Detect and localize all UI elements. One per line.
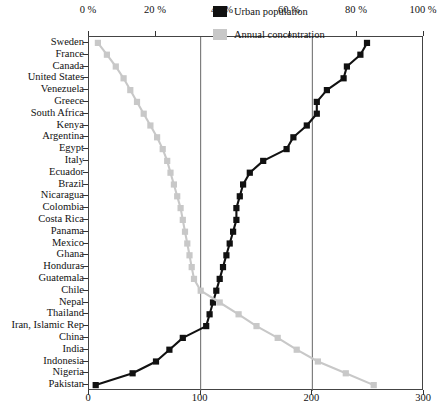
category-label: Pakistan (48, 379, 84, 390)
category-tick (83, 77, 88, 78)
series-marker (217, 299, 223, 305)
legend-label: Urban population (234, 6, 308, 17)
category-tick (83, 361, 88, 362)
category-tick (83, 254, 88, 255)
category-tick (83, 243, 88, 244)
category-label: France (55, 48, 84, 59)
category-tick (83, 337, 88, 338)
legend-item[interactable]: Urban population (213, 4, 308, 18)
category-tick (83, 136, 88, 137)
series-marker (121, 75, 127, 81)
series-canvas (89, 37, 424, 391)
series-marker (93, 382, 99, 388)
category-tick (83, 266, 88, 267)
category-label: China (59, 332, 84, 343)
top-axis-tick-label: 80 % (345, 4, 367, 15)
series-marker (174, 193, 180, 199)
series-marker (364, 40, 370, 46)
category-tick (83, 302, 88, 303)
category-label: United States (28, 72, 84, 83)
series-marker (284, 146, 290, 152)
category-tick (83, 372, 88, 373)
category-label: Panama (51, 225, 84, 236)
category-tick (83, 42, 88, 43)
category-tick (83, 325, 88, 326)
series-marker (147, 122, 153, 128)
category-label: Italy (65, 155, 84, 166)
series-marker (166, 347, 172, 353)
legend-item[interactable]: Annual concentration (213, 27, 325, 41)
series-marker (182, 229, 188, 235)
series-marker (223, 252, 229, 258)
series-marker (275, 335, 281, 341)
series-marker (203, 323, 209, 329)
category-tick (83, 148, 88, 149)
category-label: Ecuador (49, 166, 84, 177)
category-tick (83, 160, 88, 161)
category-label: Canada (53, 60, 85, 71)
series-marker (180, 335, 186, 341)
series-marker (247, 170, 253, 176)
category-tick (83, 101, 88, 102)
series-marker (260, 158, 266, 164)
category-tick (83, 349, 88, 350)
category-label: Brazil (58, 178, 84, 189)
series-marker (189, 264, 195, 270)
series-marker (134, 99, 140, 105)
category-tick (83, 384, 88, 385)
category-tick (83, 313, 88, 314)
top-axis-tick (423, 31, 424, 36)
category-label: Chile (61, 284, 84, 295)
series-marker (213, 288, 219, 294)
category-label: Mexico (52, 237, 84, 248)
category-label: Iran, Islamic Rep (11, 320, 84, 331)
series-line (96, 43, 367, 385)
legend-swatch-icon (213, 29, 227, 40)
category-label: Thailand (47, 308, 84, 319)
series-marker (160, 146, 166, 152)
series-marker (341, 75, 347, 81)
category-label: Argentina (42, 131, 84, 142)
series-marker (207, 311, 213, 317)
category-label: South Africa (31, 107, 84, 118)
series-marker (233, 205, 239, 211)
category-label: Colombia (43, 202, 84, 213)
category-label: Honduras (43, 261, 84, 272)
category-label: India (62, 343, 84, 354)
category-tick (83, 89, 88, 90)
plot-area (88, 36, 423, 390)
category-label: Egypt (59, 143, 84, 154)
category-tick (83, 113, 88, 114)
category-tick (83, 184, 88, 185)
category-tick (83, 290, 88, 291)
top-axis-tick-label: 100 % (409, 4, 436, 15)
series-marker (141, 111, 147, 117)
series-marker (198, 288, 204, 294)
series-marker (104, 52, 110, 58)
category-label: Guatemala (39, 273, 84, 284)
category-label: Nicaragua (41, 190, 84, 201)
chart-figure: SwedenFranceCanadaUnited StatesVenezuela… (0, 0, 443, 419)
series-marker (357, 52, 363, 58)
category-label: Indonesia (43, 355, 84, 366)
series-marker (230, 229, 236, 235)
category-label: Nepal (59, 296, 84, 307)
series-marker (344, 63, 350, 69)
category-tick (83, 278, 88, 279)
category-label: Sweden (51, 37, 84, 48)
series-marker (127, 87, 133, 93)
category-label: Venezuela (41, 84, 84, 95)
series-marker (236, 311, 242, 317)
category-label: Greece (54, 96, 84, 107)
series-marker (184, 240, 190, 246)
top-axis-tick-label: 0 % (80, 4, 97, 15)
series-marker (130, 370, 136, 376)
series-marker (237, 193, 243, 199)
category-tick (83, 195, 88, 196)
category-tick (83, 207, 88, 208)
series-marker (153, 358, 159, 364)
series-marker (113, 63, 119, 69)
category-label: Nigeria (53, 367, 85, 378)
series-marker (314, 99, 320, 105)
series-marker (304, 122, 310, 128)
